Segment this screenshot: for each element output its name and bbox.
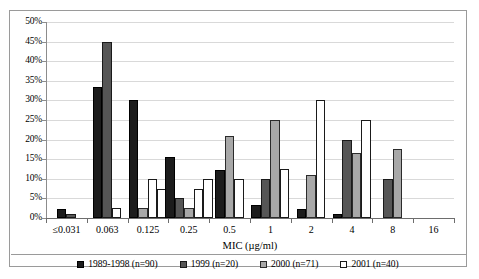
x-axis-tick-label: 0.25 (180, 224, 198, 236)
y-axis-line (46, 22, 47, 218)
x-axis-tick (87, 218, 88, 223)
x-axis-tick-label: 8 (390, 224, 395, 236)
bar (194, 189, 204, 218)
bar-group (128, 22, 169, 218)
bar (102, 42, 112, 218)
bar (306, 175, 316, 218)
dark-gray-square-icon (180, 261, 187, 268)
y-axis-tick-label: 45% (25, 37, 42, 47)
y-axis-tick-label: 35% (25, 76, 42, 86)
bar (129, 100, 139, 218)
legend-item: 1989-1998 (n=90) (77, 259, 157, 269)
bar-group (87, 22, 128, 218)
y-axis-tick-label: 20% (25, 135, 42, 145)
x-axis-tick (454, 218, 455, 223)
x-axis-labels: ≤0.0310.0630.1250.250.5124816 (46, 224, 454, 240)
x-axis-tick-label: 0.063 (96, 224, 119, 236)
bar-group (46, 22, 87, 218)
bar (148, 179, 158, 218)
x-axis-tick (332, 218, 333, 223)
y-axis-tick (41, 198, 46, 199)
bar (112, 208, 122, 218)
y-axis-labels: 0%5%10%15%20%25%30%35%40%45%50% (10, 11, 44, 229)
bar (138, 208, 148, 218)
x-axis-tick (128, 218, 129, 223)
y-axis-tick (41, 42, 46, 43)
x-axis-tick-label: 16 (429, 224, 439, 236)
x-axis-tick-label: 1 (268, 224, 273, 236)
x-axis-tick-label: 2 (309, 224, 314, 236)
y-axis-tick (41, 100, 46, 101)
black-square-icon (77, 261, 84, 268)
chart-frame: 0%5%10%15%20%25%30%35%40%45%50% ≤0.0310.… (9, 10, 467, 267)
bar-group (250, 22, 291, 218)
bar (393, 149, 403, 218)
y-axis-tick-label: 10% (25, 174, 42, 184)
bar (297, 209, 307, 218)
plot-area (46, 22, 454, 218)
x-axis-title: MIC (µg/ml) (46, 239, 454, 252)
y-axis-tick (41, 140, 46, 141)
legend-item-label: 2000 (n=71) (271, 259, 318, 269)
y-axis-tick-label: 40% (25, 56, 42, 66)
bar-group (168, 22, 209, 218)
y-axis-tick (41, 61, 46, 62)
bar (342, 140, 352, 218)
y-axis-tick (41, 120, 46, 121)
y-axis-tick (41, 159, 46, 160)
bar (270, 120, 280, 218)
bar (57, 209, 67, 218)
x-axis-tick-label: 0.5 (223, 224, 236, 236)
legend-item: 2000 (n=71) (260, 259, 318, 269)
y-axis-tick-label: 15% (25, 154, 42, 164)
bar (175, 198, 185, 218)
x-axis-tick (250, 218, 251, 223)
x-axis-tick (291, 218, 292, 223)
y-axis-tick (41, 81, 46, 82)
bar-group (209, 22, 250, 218)
bar (280, 169, 290, 218)
white-square-icon (340, 261, 347, 268)
legend-item: 2001 (n=40) (340, 259, 398, 269)
x-axis-tick-label: ≤0.031 (52, 224, 80, 236)
legend-separator (11, 254, 467, 255)
x-axis-tick (372, 218, 373, 223)
bar (165, 157, 175, 218)
light-gray-square-icon (260, 261, 267, 268)
bar (352, 153, 362, 218)
y-axis-tick (41, 22, 46, 23)
legend-item: 1999 (n=20) (180, 259, 238, 269)
legend-item-label: 1989-1998 (n=90) (88, 259, 157, 269)
bar-group (372, 22, 413, 218)
bar-group (291, 22, 332, 218)
bar-group (332, 22, 373, 218)
bar (361, 120, 371, 218)
bar (184, 208, 194, 218)
chart-legend: 1989-1998 (n=90)1999 (n=20)2000 (n=71)20… (10, 257, 466, 271)
y-axis-tick-label: 50% (25, 17, 42, 27)
bar (225, 136, 235, 218)
y-axis-tick-label: 25% (25, 115, 42, 125)
x-axis-tick (168, 218, 169, 223)
legend-item-label: 2001 (n=40) (351, 259, 398, 269)
bar-groups (46, 22, 454, 218)
bar (316, 100, 326, 218)
bar (261, 179, 271, 218)
x-axis-tick (46, 218, 47, 223)
x-axis-tick-label: 0.125 (137, 224, 160, 236)
legend-item-label: 1999 (n=20) (191, 259, 238, 269)
bar (93, 87, 103, 218)
bar (215, 170, 225, 218)
y-axis-tick (41, 179, 46, 180)
bar (234, 179, 244, 218)
x-axis-tick-label: 4 (350, 224, 355, 236)
bar (383, 179, 393, 218)
bar-group (413, 22, 454, 218)
y-axis-tick-label: 30% (25, 95, 42, 105)
x-axis-tick (209, 218, 210, 223)
x-axis-tick (413, 218, 414, 223)
bar (251, 205, 261, 218)
